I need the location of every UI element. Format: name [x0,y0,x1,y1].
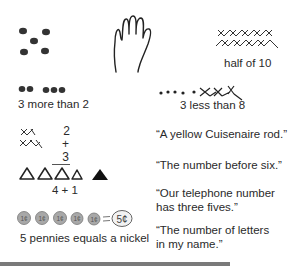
caption-pennies-nickel: 5 pennies equals a nickel [20,232,149,244]
svg-text:1¢: 1¢ [90,216,98,223]
addend-bottom: + 3 [52,138,70,165]
quote-telephone-number: “Our telephone number has three fives.” [156,186,275,214]
quote-number-before-six: “The number before six.” [156,158,282,172]
caption-half-of-10: half of 10 [224,57,271,69]
addition-problem: 2 + 3 [52,125,70,165]
bottom-divider-rule [0,262,230,266]
svg-text:1¢: 1¢ [38,215,46,222]
x-marks-two-rows [216,28,282,54]
hand-icon [112,14,162,74]
caption-3-less-than-8: 3 less than 8 [180,99,245,111]
svg-text:1¢: 1¢ [56,215,64,222]
quote-telephone-line1: “Our telephone number [156,186,275,200]
quote-letters-line1: “The number of letters [156,223,269,237]
x-marks-two-over-three [20,127,50,149]
dots-two-and-three [18,85,88,95]
quote-letters-line2: in my name.” [156,237,269,251]
dots-and-crossed-marks [158,82,270,100]
quote-letters-in-name: “The number of letters in my name.” [156,223,269,251]
pennies-equal-nickel: 1¢ 1¢ 1¢ 1¢ 1¢ 5¢ [17,209,147,227]
caption-4-plus-1: 4 + 1 [52,184,78,196]
triangles-four-open-one-filled [18,165,108,181]
quote-telephone-line2: has three fives.” [156,200,275,214]
dice-five-dots [18,26,54,56]
caption-3-more-than-2: 3 more than 2 [18,98,89,110]
svg-text:5¢: 5¢ [116,214,127,225]
svg-text:1¢: 1¢ [20,215,28,222]
quote-cuisenaire-rod: “A yellow Cuisenaire rod.” [156,127,287,141]
svg-text:1¢: 1¢ [73,215,81,222]
